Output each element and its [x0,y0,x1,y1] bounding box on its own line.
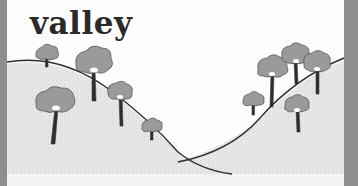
tree-6 [243,92,264,116]
valley-illustration: valley [0,0,358,186]
valley-label: valley [30,8,132,39]
frame-border-right [344,0,358,186]
